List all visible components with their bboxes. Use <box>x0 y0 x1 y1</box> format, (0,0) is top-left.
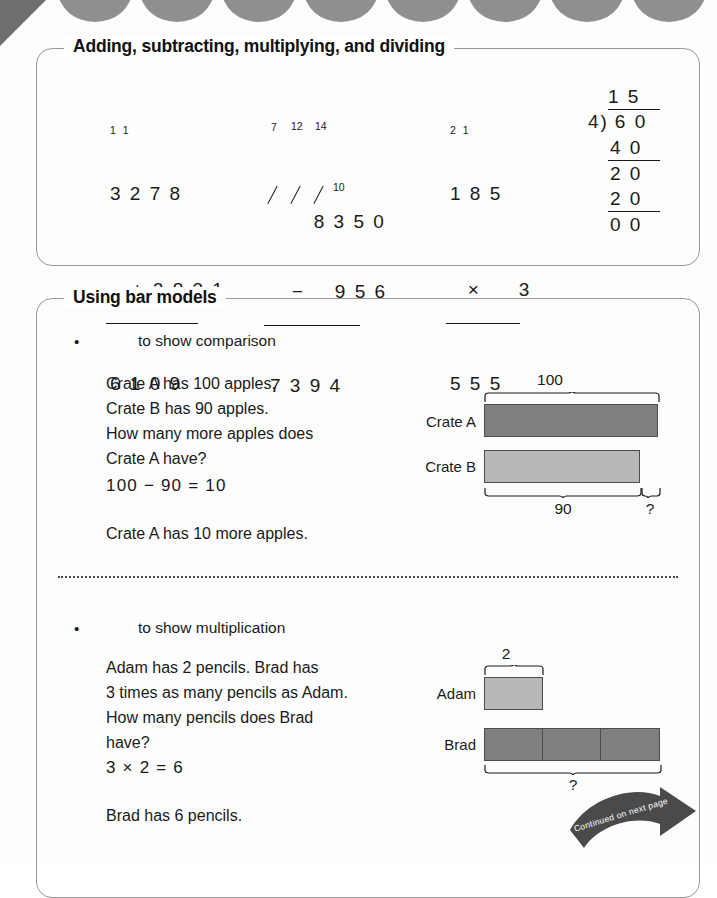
multiplication-top-brace-label: 2 <box>488 645 524 663</box>
division-step-2: 2 0 <box>610 161 660 186</box>
example-heading-comparison: to show comparison <box>138 332 276 350</box>
comparison-top-brace-label: 100 <box>520 371 580 389</box>
multiplication-bar-2-label: Brad <box>412 736 476 753</box>
division-step-3: 2 0 <box>610 186 660 211</box>
multiplication-factor-2: 3 <box>519 279 532 300</box>
division-vinculum <box>608 109 660 110</box>
comparison-bottom-brace-90 <box>484 487 642 498</box>
comparison-bottom-brace-label: 90 <box>533 500 593 518</box>
comparison-bar-2-label: Crate B <box>412 458 476 475</box>
comparison-bar-1-label: Crate A <box>412 413 476 430</box>
bullet-marker-comparison: • <box>74 333 79 350</box>
comparison-difference-label: ? <box>634 500 666 518</box>
multiplication-operator: × <box>468 279 481 300</box>
corner-wedge-decoration <box>0 0 46 46</box>
bullet-marker-multiplication: • <box>74 620 79 637</box>
division-problem: 1 5 4) 6 0 4 0 2 0 2 0 0 0 <box>588 84 660 237</box>
multiplication-bar-brad <box>484 728 660 761</box>
comparison-answer-text: Crate A has 10 more apples. <box>106 521 436 546</box>
multiplication-equation: 3 × 2 = 6 <box>106 758 184 778</box>
comparison-bar-crate-a <box>484 404 658 437</box>
multiplication-bar-1-label: Adam <box>412 685 476 702</box>
multiplication-top-brace <box>484 665 544 676</box>
subtraction-regroup-ones: 10 <box>333 182 345 193</box>
comparison-bottom-brace-difference <box>641 487 661 498</box>
multiplication-carries: 2 1 <box>450 124 531 137</box>
addition-addend-1: 3 2 7 8 <box>110 181 225 207</box>
division-divisor: 4 <box>588 111 601 132</box>
operations-worked-examples: 1 1 3 2 7 8 +2 8 3 1 6 1 0 9 7 12 14 8 3… <box>36 48 700 266</box>
comparison-problem-text: Crate A has 100 apples. Crate B has 90 a… <box>106 371 406 471</box>
multiplication-bottom-brace <box>484 764 662 775</box>
multiplication-bar-adam <box>484 677 543 710</box>
example-heading-multiplication: to show multiplication <box>138 619 285 637</box>
multiplication-answer-text: Brad has 6 pencils. <box>106 803 406 828</box>
continued-arrow: Continued on next page <box>568 786 700 856</box>
division-step-1: 4 0 <box>610 135 660 160</box>
division-remainder: 0 0 <box>610 212 660 237</box>
subtraction-regroup-tens: 14 <box>315 121 327 132</box>
example-divider <box>58 576 678 578</box>
division-quotient: 1 5 <box>608 84 660 109</box>
strikethrough-mark-2 <box>290 186 301 204</box>
strikethrough-mark-1 <box>267 186 278 204</box>
brad-unit-2 <box>543 729 601 760</box>
multiplication-factor-1: 1 8 5 <box>450 181 531 207</box>
subtraction-minuend: 8 3 5 0 <box>314 211 386 232</box>
scallop-decoration <box>0 0 717 26</box>
comparison-equation: 100 − 90 = 10 <box>106 476 227 496</box>
subtraction-regroup-thousands: 7 <box>271 122 277 133</box>
division-dividend-line: 4) 6 0 <box>588 109 660 135</box>
addition-addend-2-line: +2 8 3 1 <box>88 251 225 277</box>
subtraction-regroup-hundreds: 12 <box>291 121 303 132</box>
comparison-bar-crate-b <box>484 450 640 483</box>
comparison-top-brace <box>484 392 660 403</box>
multiplication-factor-2-line: ×3 <box>424 251 531 277</box>
bar-models-section-title: Using bar models <box>64 287 226 308</box>
division-dividend: 6 0 <box>615 111 647 132</box>
brad-unit-1 <box>485 729 543 760</box>
strikethrough-mark-3 <box>313 186 324 204</box>
addition-carries: 1 1 <box>110 124 225 137</box>
subtraction-subtrahend-line: −9 5 6 <box>248 253 387 279</box>
multiplication-problem-text: Adam has 2 pencils. Brad has 3 times as … <box>106 655 426 755</box>
